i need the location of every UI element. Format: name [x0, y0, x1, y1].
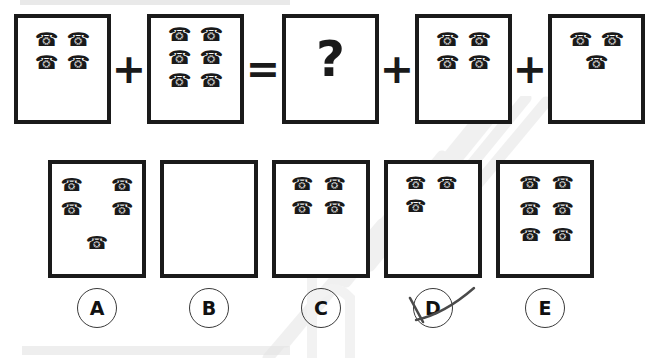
option-panel-c[interactable]: ☎ ☎ ☎ ☎ [272, 160, 370, 278]
telephone-icon: ☎ [551, 226, 573, 244]
answer-option-d[interactable]: ☎ ☎ ☎ D [384, 160, 482, 278]
telephone-icon: ☎ [569, 30, 593, 49]
telephone-icon: ☎ [291, 175, 313, 193]
option-panel-e[interactable]: ☎ ☎ ☎ ☎ ☎ ☎ [496, 160, 594, 278]
phone-grid: ☎ ☎ ☎ [552, 28, 641, 74]
answer-option-a[interactable]: ☎ ☎ ☎ ☎ ☎ A [48, 160, 146, 278]
phone-row: ☎ ☎ [432, 51, 495, 74]
phone-row: ☎ ☎ [432, 28, 495, 51]
option-letter-circle-b[interactable]: B [189, 288, 229, 328]
answer-option-c[interactable]: ☎ ☎ ☎ ☎ C [272, 160, 370, 278]
equation-panel-unknown: ? [282, 14, 379, 124]
telephone-icon: ☎ [291, 199, 313, 217]
telephone-icon: ☎ [519, 174, 541, 192]
option-letter-circle-c[interactable]: C [301, 288, 341, 328]
telephone-icon: ☎ [468, 53, 492, 72]
phone-row: ☎ ☎ [164, 69, 227, 92]
answer-options-row: ☎ ☎ ☎ ☎ ☎ A B [48, 160, 594, 278]
telephone-icon: ☎ [200, 25, 224, 44]
equation-panel-addend-2: ☎ ☎ ☎ ☎ ☎ ☎ [147, 14, 244, 124]
phone-grid: ☎ ☎ ☎ ☎ ☎ [52, 172, 142, 254]
option-letter-a: A [90, 297, 105, 319]
phone-row: ☎ ☎ [565, 28, 628, 51]
option-letter-c: C [314, 297, 328, 319]
option-panel-d[interactable]: ☎ ☎ ☎ [384, 160, 482, 278]
plus-operator-icon: + [379, 14, 415, 124]
phone-grid: ☎ ☎ ☎ ☎ [18, 28, 107, 74]
telephone-icon: ☎ [67, 53, 91, 72]
phone-row: ☎ ☎ [286, 172, 351, 196]
scan-artifact-bottom-bar [22, 346, 290, 355]
question-mark-icon: ? [286, 34, 375, 84]
equation-row: ☎ ☎ ☎ ☎ + ☎ ☎ ☎ ☎ [14, 14, 645, 124]
phone-row: ☎ ☎ [400, 172, 462, 195]
telephone-icon: ☎ [168, 48, 192, 67]
answer-option-b[interactable]: B [160, 160, 258, 278]
phone-row: ☎ [72, 232, 122, 254]
plus-operator-icon: + [512, 14, 548, 124]
telephone-icon: ☎ [436, 53, 460, 72]
telephone-icon: ☎ [551, 200, 573, 218]
option-letter-d: D [425, 297, 441, 319]
telephone-icon: ☎ [551, 174, 573, 192]
equation-panel-addend-3: ☎ ☎ ☎ ☎ [415, 14, 512, 124]
phone-row: ☎ ☎ [286, 196, 351, 220]
equation-panel-addend-1: ☎ ☎ ☎ ☎ [14, 14, 111, 124]
phone-grid: ☎ ☎ ☎ ☎ ☎ ☎ [500, 170, 590, 248]
phone-row: ☎ ☎ [514, 222, 579, 248]
telephone-icon: ☎ [200, 48, 224, 67]
telephone-icon: ☎ [436, 30, 460, 49]
phone-row: ☎ [581, 51, 613, 74]
plus-operator-icon: + [111, 14, 147, 124]
phone-row: ☎ ☎ [164, 46, 227, 69]
phone-grid: ☎ ☎ ☎ [388, 172, 478, 218]
telephone-icon: ☎ [323, 175, 345, 193]
phone-row: ☎ ☎ [31, 51, 94, 74]
option-panel-b[interactable] [160, 160, 258, 278]
telephone-icon: ☎ [436, 175, 457, 192]
phone-row: ☎ ☎ [514, 196, 579, 222]
scan-artifact-top-bar [20, 0, 290, 5]
equation-panel-addend-4: ☎ ☎ ☎ [548, 14, 645, 124]
phone-row: ☎ ☎ [47, 172, 148, 198]
telephone-icon: ☎ [585, 53, 609, 72]
option-letter-b: B [202, 297, 216, 319]
telephone-icon: ☎ [323, 199, 345, 217]
telephone-icon: ☎ [405, 198, 426, 215]
telephone-icon: ☎ [200, 71, 224, 90]
phone-row: ☎ ☎ [514, 170, 579, 196]
telephone-icon: ☎ [111, 176, 133, 194]
telephone-icon: ☎ [168, 71, 192, 90]
phone-row: ☎ ☎ [164, 23, 227, 46]
telephone-icon: ☎ [405, 175, 426, 192]
telephone-icon: ☎ [86, 234, 108, 252]
phone-row: ☎ ☎ [31, 28, 94, 51]
telephone-icon: ☎ [61, 200, 83, 218]
telephone-icon: ☎ [35, 30, 59, 49]
phone-grid: ☎ ☎ ☎ ☎ [419, 28, 508, 74]
equals-operator-icon: = [244, 14, 282, 124]
phone-grid: ☎ ☎ ☎ ☎ [276, 172, 366, 220]
phone-row: ☎ ☎ [47, 198, 148, 220]
option-letter-circle-e[interactable]: E [525, 288, 565, 328]
telephone-icon: ☎ [67, 30, 91, 49]
telephone-icon: ☎ [35, 53, 59, 72]
telephone-icon: ☎ [168, 25, 192, 44]
telephone-icon: ☎ [61, 176, 83, 194]
option-panel-a[interactable]: ☎ ☎ ☎ ☎ ☎ [48, 160, 146, 278]
answer-option-e[interactable]: ☎ ☎ ☎ ☎ ☎ ☎ E [496, 160, 594, 278]
option-letter-circle-a[interactable]: A [77, 288, 117, 328]
telephone-icon: ☎ [519, 200, 541, 218]
option-letter-e: E [539, 297, 552, 319]
telephone-icon: ☎ [601, 30, 625, 49]
telephone-icon: ☎ [468, 30, 492, 49]
phone-grid: ☎ ☎ ☎ ☎ ☎ ☎ [151, 23, 240, 92]
option-letter-circle-d[interactable]: D [413, 288, 453, 328]
phone-row: ☎ [400, 195, 431, 218]
telephone-icon: ☎ [519, 226, 541, 244]
telephone-icon: ☎ [111, 200, 133, 218]
worksheet-page: ☎ ☎ ☎ ☎ + ☎ ☎ ☎ ☎ [0, 0, 664, 358]
